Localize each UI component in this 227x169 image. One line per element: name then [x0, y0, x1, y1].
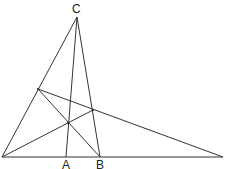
- label-c: C: [72, 3, 81, 15]
- segment-p-e: [2, 110, 93, 157]
- segments-group: [2, 17, 223, 157]
- label-b: B: [96, 159, 104, 169]
- point-d: [37, 88, 39, 90]
- segment-d-q: [38, 89, 223, 157]
- segment-c-a: [66, 17, 77, 157]
- geometry-diagram: [0, 0, 227, 169]
- label-a: A: [62, 159, 70, 169]
- point-e: [92, 109, 94, 111]
- segment-p-c: [2, 17, 77, 157]
- point-o: [67, 122, 69, 124]
